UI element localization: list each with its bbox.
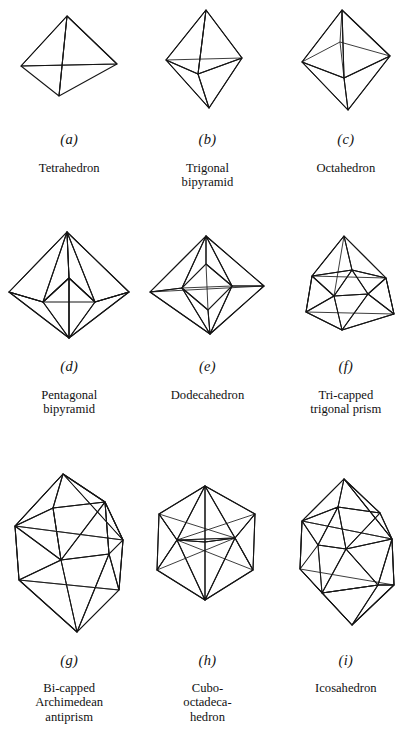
figure-letter-h: (h) [199,653,217,668]
figure-letter-e: (e) [199,359,216,374]
figure-letter-c: (c) [337,132,354,147]
bicapped-antiprism-drawing [5,468,133,638]
dodecahedron-drawing [144,230,270,340]
figure-letter-g: (g) [60,653,78,668]
figure-cell-g: (g) Bi-capped Archimedean antiprism [0,455,138,729]
figure-cell-f: (f) Tri-capped trigonal prism [277,205,415,455]
figure-letter-b: (b) [199,132,217,147]
shape-box-bicapped-antiprism [0,455,138,643]
figure-letter-d: (d) [60,359,78,374]
shape-box-icosahedron [277,455,415,643]
figure-cell-e: (e) Dodecahedron [138,205,276,455]
shape-box-dodecahedron [138,205,276,345]
figure-name-f: Tri-capped trigonal prism [310,388,381,417]
shape-box-pentagonal-bipyramid [0,205,138,345]
trigonal-bipyramid-drawing [152,4,262,116]
shape-box-cubooctadecahedron [138,455,276,643]
figure-cell-c: (c) Octahedron [277,0,415,205]
figure-cell-d: (d) Pentagonal bipyramid [0,205,138,455]
figure-letter-f: (f) [339,359,354,374]
figure-name-e: Dodecahedron [171,388,244,403]
figure-name-h: Cubo- octadeca- hedron [183,681,231,725]
figure-name-a: Tetrahedron [39,161,100,176]
tetrahedron-drawing [9,8,129,112]
figure-name-g: Bi-capped Archimedean antiprism [35,681,103,725]
shape-box-tricapped-trigonal-prism [277,205,415,345]
figure-cell-h: (h) Cubo- octadeca- hedron [138,455,276,729]
figure-cell-i: (i) Icosahedron [277,455,415,729]
shape-box-trigonal-bipyramid [138,0,276,116]
icosahedron-drawing [282,473,410,633]
pentagonal-bipyramid-drawing [3,226,135,344]
octahedron-drawing [290,4,402,116]
shape-box-octahedron [277,0,415,116]
tricapped-trigonal-prism-drawing [282,230,410,340]
cubooctadecahedron-drawing [143,478,271,628]
figure-name-d: Pentagonal bipyramid [41,388,97,417]
figure-name-c: Octahedron [316,161,375,176]
figure-cell-a: (a) Tetrahedron [0,0,138,205]
figure-letter-i: (i) [339,653,354,668]
figure-name-i: Icosahedron [315,681,377,696]
figure-name-b: Trigonal bipyramid [182,161,234,190]
shape-box-tetrahedron [0,0,138,116]
polyhedra-figure-grid: (a) Tetrahedron (b) Trigonal bipyramid [0,0,415,729]
figure-cell-b: (b) Trigonal bipyramid [138,0,276,205]
figure-letter-a: (a) [60,132,78,147]
